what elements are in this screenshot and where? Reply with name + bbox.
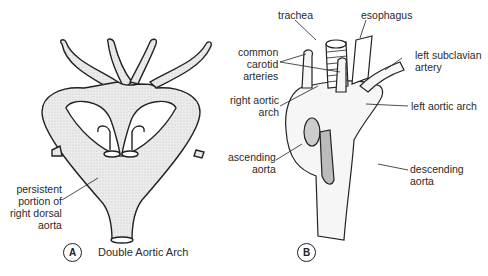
label-line: arteries xyxy=(238,70,278,82)
label-line: ascending xyxy=(228,151,276,163)
label-line: common xyxy=(238,46,278,58)
label-left-aortic-arch: left aortic arch xyxy=(411,100,477,112)
label-common-carotid-arteries: common carotid arteries xyxy=(238,46,278,82)
label-line: aorta xyxy=(10,219,62,231)
label-line: portion of xyxy=(10,195,62,207)
label-line: persistent xyxy=(10,183,62,195)
left-aortic-arch-drawing xyxy=(286,36,404,240)
label-persistent-right-dorsal-aorta: persistent portion of right dorsal aorta xyxy=(10,183,62,231)
label-line: right aortic xyxy=(230,94,279,106)
panel-a-marker: A xyxy=(63,243,82,262)
label-line: carotid xyxy=(238,58,278,70)
panel-a-caption: Double Aortic Arch xyxy=(98,246,189,258)
label-line: aorta xyxy=(228,163,276,175)
label-ascending-aorta: ascending aorta xyxy=(228,151,276,175)
label-line: artery xyxy=(415,61,482,73)
label-line: right dorsal xyxy=(10,207,62,219)
label-line: arch xyxy=(230,106,279,118)
label-descending-aorta: descending aorta xyxy=(410,163,464,187)
label-right-aortic-arch: right aortic arch xyxy=(230,94,279,118)
label-line: aorta xyxy=(410,175,464,187)
double-aortic-arch-drawing xyxy=(42,39,211,243)
label-esophagus: esophagus xyxy=(361,9,412,21)
panel-b-marker: B xyxy=(297,243,316,262)
label-line: descending xyxy=(410,163,464,175)
diagram-drawing xyxy=(0,0,488,276)
label-left-subclavian-artery: left subclavian artery xyxy=(415,49,482,73)
label-trachea: trachea xyxy=(278,9,313,21)
label-line: left subclavian xyxy=(415,49,482,61)
